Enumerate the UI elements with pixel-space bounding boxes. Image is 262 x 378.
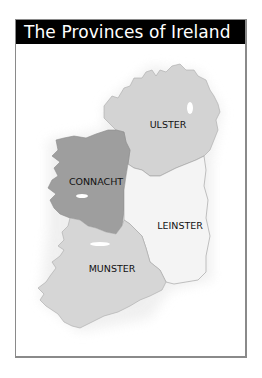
lough-corrib	[76, 194, 88, 198]
label-munster: MUNSTER	[89, 263, 136, 274]
label-leinster: LEINSTER	[157, 220, 203, 231]
lough-neagh	[187, 102, 193, 114]
label-connacht: CONNACHT	[69, 176, 123, 187]
label-ulster: ULSTER	[150, 119, 187, 130]
shannon-estuary	[90, 242, 110, 246]
ireland-map: ULSTER CONNACHT LEINSTER MUNSTER	[0, 0, 262, 378]
